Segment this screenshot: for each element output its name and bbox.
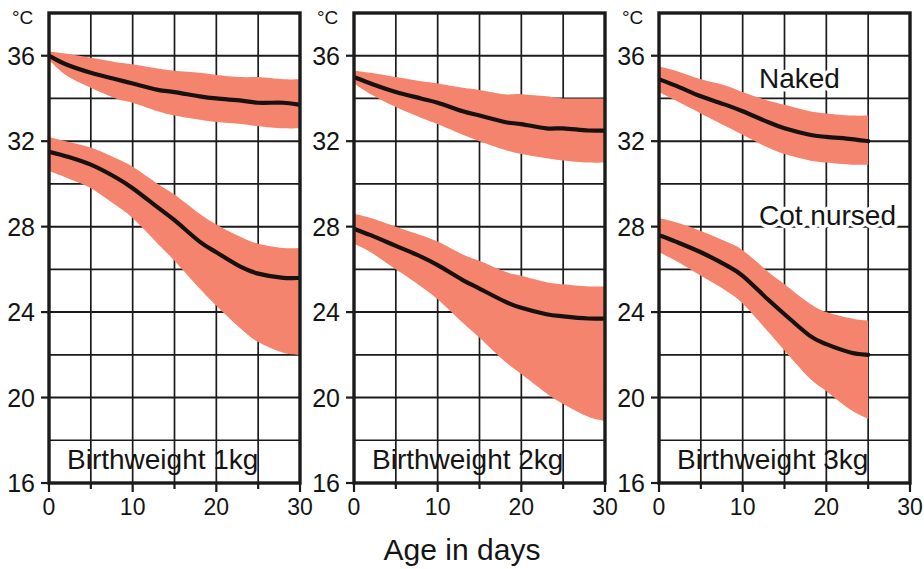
x-tick-label: 30: [592, 494, 618, 520]
y-axis-unit-label: °C: [12, 7, 33, 28]
y-tick-label: 20: [312, 384, 340, 412]
x-tick-label: 30: [897, 494, 923, 520]
y-tick-label: 28: [7, 213, 35, 241]
series-annotation-naked: Naked: [759, 63, 840, 94]
series-annotation-cot-nursed: Cot nursed: [759, 200, 896, 231]
y-tick-label: 32: [617, 127, 645, 155]
x-tick-label: 20: [509, 494, 535, 520]
figure-root: 162024283236°C0102030Birthweight 1kg1620…: [0, 0, 924, 569]
y-tick-label: 28: [617, 213, 645, 241]
x-tick-label: 20: [814, 494, 840, 520]
x-tick-label: 0: [653, 494, 666, 520]
x-tick-label: 10: [425, 494, 451, 520]
y-tick-label: 16: [617, 469, 645, 497]
x-tick-label: 20: [204, 494, 230, 520]
y-tick-label: 20: [617, 384, 645, 412]
y-tick-label: 16: [7, 469, 35, 497]
x-tick-label: 10: [730, 494, 756, 520]
y-tick-label: 36: [7, 42, 35, 70]
x-tick-label: 30: [287, 494, 313, 520]
panel-label-1: Birthweight 1kg: [67, 444, 258, 475]
y-tick-label: 24: [7, 298, 35, 326]
y-axis-unit-label: °C: [622, 7, 643, 28]
y-tick-label: 36: [617, 42, 645, 70]
y-axis-unit-label: °C: [317, 7, 338, 28]
x-tick-label: 0: [348, 494, 361, 520]
x-axis-title: Age in days: [384, 533, 541, 566]
y-tick-label: 32: [312, 127, 340, 155]
y-tick-label: 24: [617, 298, 645, 326]
x-tick-label: 0: [43, 494, 56, 520]
panel-label-2: Birthweight 2kg: [372, 444, 563, 475]
neonatal-thermoneutral-chart: 162024283236°C0102030Birthweight 1kg1620…: [0, 0, 924, 569]
y-tick-label: 36: [312, 42, 340, 70]
y-tick-label: 20: [7, 384, 35, 412]
y-tick-label: 32: [7, 127, 35, 155]
y-tick-label: 16: [312, 469, 340, 497]
y-tick-label: 24: [312, 298, 340, 326]
panel-label-3: Birthweight 3kg: [677, 444, 868, 475]
x-tick-label: 10: [120, 494, 146, 520]
y-tick-label: 28: [312, 213, 340, 241]
